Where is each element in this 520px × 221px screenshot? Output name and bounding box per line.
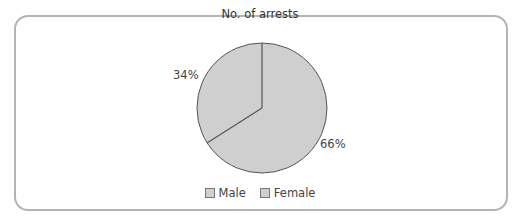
- legend-swatch-male: [205, 188, 215, 198]
- legend-label-female: Female: [274, 186, 316, 200]
- legend-swatch-female: [260, 188, 270, 198]
- legend-item-male: Male: [205, 186, 246, 200]
- label-female-pct: 34%: [173, 68, 199, 82]
- label-male-pct: 66%: [320, 137, 346, 151]
- legend-label-male: Male: [219, 186, 246, 200]
- legend: Male Female: [0, 186, 520, 200]
- legend-item-female: Female: [260, 186, 316, 200]
